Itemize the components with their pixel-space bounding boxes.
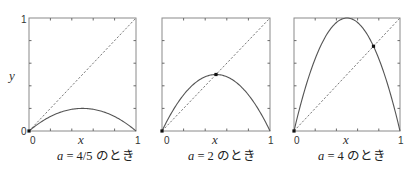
panel-a-4-5: 1 0 0 1 x a = 4/5 のとき <box>21 14 141 163</box>
fixed-point-marker <box>214 73 217 76</box>
x-tick-label-0: 0 <box>164 135 170 146</box>
fixed-point-markers <box>27 129 30 132</box>
x-axis-label: x <box>342 132 349 147</box>
fixed-point-marker <box>27 129 30 132</box>
x-tick-label-0: 0 <box>294 135 300 146</box>
panel-caption: a = 2 のとき <box>188 149 256 163</box>
logistic-curve <box>29 108 136 131</box>
fixed-point-marker <box>292 129 295 132</box>
x-tick-label-1: 1 <box>398 135 404 146</box>
fixed-point-marker <box>372 45 375 48</box>
fixed-point-marker <box>160 129 163 132</box>
logistic-curve <box>162 75 270 132</box>
panel-a-4: 0 1 x a = 4 のとき <box>292 18 404 163</box>
panel-a-2: 0 1 x a = 2 のとき <box>160 18 274 163</box>
x-axis-label: x <box>77 132 84 147</box>
panel-caption: a = 4/5 のとき <box>57 149 135 163</box>
y-tick-label-1: 1 <box>21 14 27 25</box>
y-tick-label-0: 0 <box>21 126 27 137</box>
x-tick-label-0: 0 <box>30 135 36 146</box>
x-tick-label-1: 1 <box>135 135 141 146</box>
panel-caption: a = 4 のとき <box>318 149 386 163</box>
logistic-map-figure: y 1 0 0 1 x a = 4/5 のとき 0 1 x a = 2 のとき … <box>0 0 413 169</box>
x-tick-label-1: 1 <box>268 135 274 146</box>
x-axis-label: x <box>211 132 218 147</box>
identity-line <box>29 18 136 131</box>
y-axis-label: y <box>7 68 15 83</box>
